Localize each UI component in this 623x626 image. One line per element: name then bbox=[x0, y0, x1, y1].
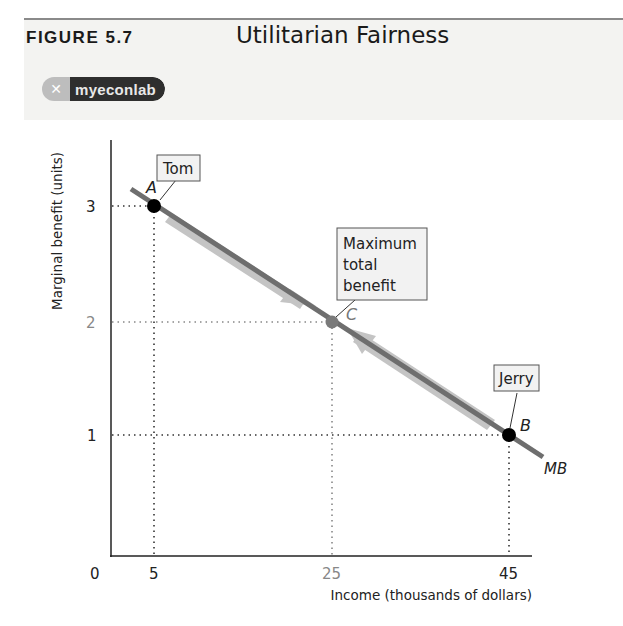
x-tick-25: 25 bbox=[322, 565, 341, 583]
max-label-line1: Maximum bbox=[343, 235, 417, 253]
point-a bbox=[147, 199, 161, 213]
max-label-line2: total bbox=[343, 256, 377, 274]
chart: Tom Maximum total benefit Jerry A C B MB… bbox=[0, 0, 623, 626]
jerry-leader bbox=[510, 393, 517, 428]
tom-label: Tom bbox=[162, 160, 193, 178]
x-tick-0: 0 bbox=[90, 565, 100, 583]
y-axis-title: Marginal benefit (units) bbox=[49, 152, 65, 310]
jerry-label: Jerry bbox=[498, 370, 534, 388]
point-b bbox=[502, 428, 516, 442]
point-c-label: C bbox=[346, 305, 358, 324]
point-b-label: B bbox=[520, 416, 531, 435]
max-label-line3: benefit bbox=[343, 277, 396, 295]
point-a-label: A bbox=[145, 178, 157, 197]
x-axis-title: Income (thousands of dollars) bbox=[331, 587, 532, 603]
x-tick-5: 5 bbox=[149, 565, 159, 583]
point-c bbox=[326, 316, 339, 329]
y-tick-2: 2 bbox=[86, 314, 96, 332]
x-tick-45: 45 bbox=[499, 565, 518, 583]
mb-label: MB bbox=[544, 460, 567, 478]
tom-leader bbox=[160, 180, 176, 200]
y-tick-1: 1 bbox=[87, 427, 97, 445]
y-tick-3: 3 bbox=[86, 198, 96, 216]
guide-lines bbox=[112, 206, 509, 556]
